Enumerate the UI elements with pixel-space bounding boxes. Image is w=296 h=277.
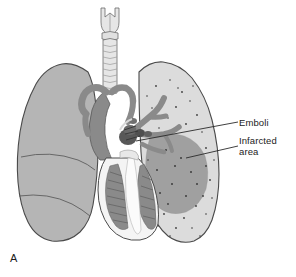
label-infarcted-area: Infarcted area <box>239 135 277 157</box>
larynx-icon <box>101 8 119 41</box>
panel-letter: A <box>10 252 17 264</box>
label-emboli: Emboli <box>239 117 269 128</box>
figure-panel: Emboli Infarcted area A <box>0 0 296 277</box>
